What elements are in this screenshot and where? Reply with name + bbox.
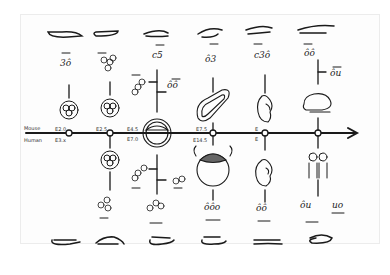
mouse-pup-icon bbox=[303, 94, 331, 112]
top-bracket-icons bbox=[48, 26, 334, 38]
stage-3-top-side-right: ôô bbox=[167, 80, 178, 90]
stage-4-bottom-glyph: ôôo bbox=[204, 202, 220, 212]
stage-2-mouse-label: E2.5 bbox=[96, 126, 107, 132]
egg-cylinder-icon bbox=[197, 90, 229, 121]
stage-4-top-glyph: ô3 bbox=[205, 54, 216, 64]
stage-5-bottom-glyph: ôô bbox=[256, 203, 267, 213]
axis-label-human: Human bbox=[24, 137, 42, 143]
bottom-bracket-icons bbox=[52, 235, 332, 245]
stage-3-top-glyph: c5 bbox=[152, 50, 163, 60]
morula-icon bbox=[101, 151, 119, 169]
human-blastocyst-icon bbox=[194, 146, 232, 186]
stage-3-mouse-label: E4.5 bbox=[127, 126, 138, 132]
stage-4-human-label: E14.5 bbox=[193, 137, 207, 143]
morula-icon bbox=[101, 99, 119, 117]
morula-icon bbox=[60, 101, 78, 119]
timeline-axis bbox=[26, 128, 357, 138]
stage-6-bottom-glyph: ôu bbox=[300, 200, 311, 210]
stage-6-top-side-right: ôu bbox=[330, 68, 341, 78]
human-fetus-icon bbox=[256, 160, 272, 187]
stage-5-human-label: E bbox=[255, 136, 258, 142]
stage-5-top-glyph: c3ô bbox=[254, 50, 270, 60]
stage-1-top-glyph: 3ô bbox=[60, 58, 71, 68]
human-figures-icon bbox=[309, 153, 327, 178]
fetus-icon bbox=[258, 96, 273, 123]
stage-3-human-label: E7.0 bbox=[127, 136, 138, 142]
axis-label-mouse: Mouse bbox=[24, 125, 40, 131]
stage-4-mouse-label: E7.5 bbox=[196, 126, 207, 132]
stage-1-human-label: E3.x bbox=[55, 137, 66, 143]
stage-5-mouse-label: E bbox=[255, 126, 258, 132]
stage-1-mouse-label: E2.0 bbox=[55, 126, 66, 132]
stage-6-bottom-side-right: uo bbox=[332, 200, 343, 210]
stage-6-top-glyph: ôô bbox=[304, 48, 315, 58]
